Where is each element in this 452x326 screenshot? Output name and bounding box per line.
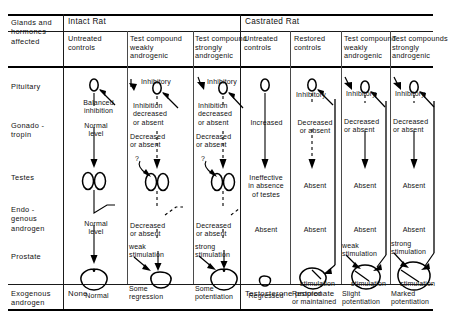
note-prostate-strong-castrated: Marked potentiation (391, 290, 439, 307)
note-testes-weak-castrated: Absent (344, 182, 386, 190)
row-label-gonadotropin: Gonado - tropin (11, 121, 44, 140)
note-testes-query-strong-intact: ? (201, 155, 205, 162)
rule-under-group-headers (8, 31, 433, 32)
note-testes-query-weak-intact: ? (135, 155, 139, 162)
column-header-restored-castrated: Restored controls (294, 35, 342, 52)
note-inhibitory-weak-castrated: Inhibitory (346, 90, 376, 98)
note-inhibition-decreased-strong-intact: Inhibition decreased or absent (198, 102, 246, 127)
row-label-endogenous: Endo - genous androgen (11, 205, 45, 233)
column-header-untreated-castrated: Untreated controls (244, 35, 292, 52)
note-weak-stimulation-intact: weak stimulation (129, 243, 175, 260)
column-header-weak-intact: Test compound weakly androgenic (130, 35, 192, 61)
note-endogenous-strong-intact: Decreased or absent (196, 222, 246, 239)
note-weak-stimulation-castrated: weak stimulation (342, 242, 386, 259)
note-endogenous-restored: Absent (294, 226, 336, 234)
group-header-intact: Intact Rat (68, 17, 106, 26)
note-testes-strong-castrated: Absent (393, 182, 435, 190)
exogenous-value-castrated: Testosterone propionate (245, 289, 334, 298)
note-stimulation-restored: stimulation (300, 280, 335, 288)
column-header-strong-castrated: Test compounds strongly androgenic (392, 35, 452, 61)
row-label-testes: Testes (11, 173, 34, 182)
rule-under-column-headers (8, 66, 433, 68)
rule-bottom (8, 309, 433, 311)
col-restored-castrated-graphics (290, 69, 341, 284)
note-endogenous-weak-intact: Decreased or absent (130, 222, 180, 239)
note-gonadotropin-strong-castrated: Decreased or absent (393, 118, 437, 135)
header-title-cell: Glands and hormones affected (11, 18, 65, 46)
note-gonadotropin-untreated-castrated: Increased (244, 119, 289, 127)
note-stimulation-weak-castrated: stimulation (351, 280, 386, 288)
note-strong-stimulation-intact: strong stimulation (195, 243, 241, 260)
note-inhibitory-restored: Inhibitory (296, 91, 326, 99)
note-inhibitory-weak-intact: Inhibitory (141, 78, 171, 86)
rule-top (8, 14, 433, 16)
androgen-response-table: Glands and hormones affected Intact Rat … (8, 14, 433, 310)
note-strong-stimulation-castrated: strong stimulation (391, 240, 435, 257)
note-inhibitory-strong-castrated: Inhibitory (395, 90, 425, 98)
note-endogenous-untreated-intact: Normal level (76, 220, 116, 237)
exogenous-value-intact: None (68, 289, 88, 298)
column-header-untreated-intact: Untreated controls (68, 35, 125, 52)
note-prostate-strong-intact: Some potentiation (195, 285, 247, 302)
note-inhibition-decreased-weak-intact: Inhibition decreased or absent (133, 102, 181, 127)
note-gonadotropin-restored: Decreased or absent (293, 119, 337, 136)
note-gonadotropin-weak-castrated: Decreased or absent (344, 118, 388, 135)
note-prostate-weak-intact: Some regression (129, 285, 181, 302)
note-endogenous-untreated-castrated: Absent (244, 226, 288, 234)
row-label-pituitary: Pituitary (11, 82, 40, 91)
note-balanced-inhibition: Balanced inhibition (76, 99, 121, 116)
note-endogenous-weak-castrated: Absent (344, 226, 386, 234)
note-stimulation-strong-castrated: stimulation (400, 280, 435, 288)
note-testes-restored: Absent (294, 182, 336, 190)
note-gonadotropin-untreated-intact: Normal level (76, 122, 116, 139)
note-gonadotropin-strong-intact: Decreased or absent (196, 133, 246, 150)
row-label-exogenous: Exogenous androgen (11, 289, 51, 308)
group-header-castrated: Castrated Rat (245, 17, 299, 26)
note-endogenous-strong-castrated: Absent (393, 226, 435, 234)
note-gonadotropin-weak-intact: Decreased or absent (130, 133, 180, 150)
note-prostate-weak-castrated: Slight potentiation (342, 290, 390, 307)
note-testes-untreated-castrated: Ineffective in absence of testes (242, 174, 290, 199)
note-inhibitory-strong-intact: Inhibitory (207, 78, 237, 86)
row-label-prostate: Prostate (11, 252, 41, 261)
